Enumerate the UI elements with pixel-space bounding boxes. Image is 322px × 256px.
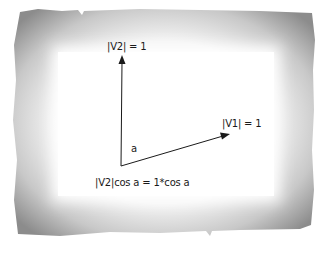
v2-magnitude-label: |V2| = 1 bbox=[107, 42, 146, 52]
angle-label: a bbox=[131, 144, 137, 154]
v1-magnitude-label: |V1| = 1 bbox=[222, 119, 261, 129]
torn-paper-frame bbox=[0, 0, 322, 256]
projection-label: |V2|cos a = 1*cos a bbox=[95, 178, 190, 188]
